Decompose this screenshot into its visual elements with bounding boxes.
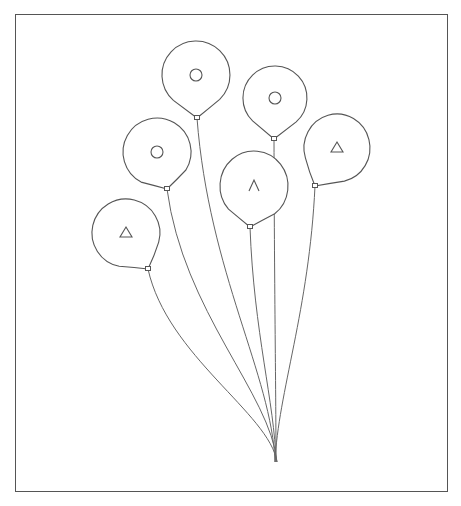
balloon-string [275,186,315,462]
balloon-knot [165,187,170,191]
balloon-string [167,189,277,462]
balloon-far-right [304,114,370,188]
balloon-body [243,66,307,139]
balloon-knot [272,137,277,141]
balloon-body [92,199,160,269]
balloon-top-center [162,41,230,120]
balloon-knot [146,267,151,271]
balloon-knot [195,116,200,120]
balloon-lower-left [92,199,160,271]
balloon-string [148,269,277,462]
balloon-body [220,151,288,227]
balloon-string [250,227,276,462]
balloons-illustration [0,0,461,506]
balloon-knot [248,225,253,229]
balloon-upper-right [243,66,307,141]
balloon-body [123,118,191,189]
balloon-knot [313,184,318,188]
balloon-center [220,151,288,228]
balloon-middle-left [123,118,191,190]
balloon-group [92,41,370,271]
balloon-body [304,114,370,186]
balloon-body [162,41,230,118]
